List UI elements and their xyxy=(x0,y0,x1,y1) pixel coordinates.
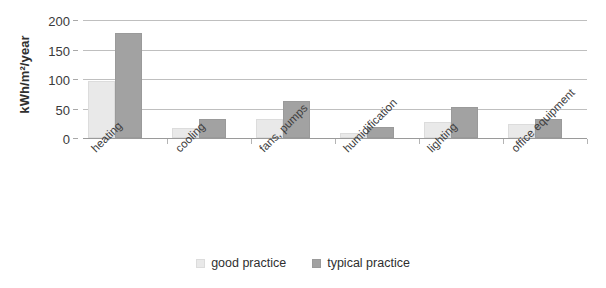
legend-label: typical practice xyxy=(327,256,410,270)
legend-item[interactable]: good practice xyxy=(196,256,286,270)
bar-chart-figure: kWh/m²/year 050100150200 heatingcoolingf… xyxy=(0,0,606,288)
y-axis-tick-mark xyxy=(73,79,78,80)
legend-swatch-icon xyxy=(196,259,205,268)
x-axis-tick-mark xyxy=(587,139,588,144)
plot-area xyxy=(83,21,587,139)
legend-swatch-icon xyxy=(312,259,321,268)
bar-group xyxy=(83,21,167,138)
y-axis-title: kWh/m²/year xyxy=(14,8,34,140)
y-axis-tick-mark xyxy=(73,20,78,21)
legend-item[interactable]: typical practice xyxy=(312,256,410,270)
legend-label: good practice xyxy=(211,256,286,270)
y-axis-tick-label: 150 xyxy=(48,43,70,58)
y-axis-tick-label: 0 xyxy=(63,132,70,147)
chart-legend: good practicetypical practice xyxy=(0,256,606,270)
bar-group xyxy=(167,21,251,138)
y-axis-tick-labels: 050100150200 xyxy=(33,21,78,139)
bar-typical[interactable] xyxy=(451,107,478,138)
y-axis-tick-label: 100 xyxy=(48,73,70,88)
bar-group xyxy=(419,21,503,138)
y-axis-tick-mark xyxy=(73,50,78,51)
x-axis-category-labels: heatingcoolingfans, pumpshumidificationl… xyxy=(83,140,587,240)
x-axis-baseline xyxy=(83,138,587,139)
y-axis-tick-label: 50 xyxy=(56,102,70,117)
y-axis-title-text: kWh/m²/year xyxy=(17,35,32,113)
y-axis-tick-label: 200 xyxy=(48,14,70,29)
y-axis-tick-mark xyxy=(73,109,78,110)
y-axis-tick-mark xyxy=(73,138,78,139)
